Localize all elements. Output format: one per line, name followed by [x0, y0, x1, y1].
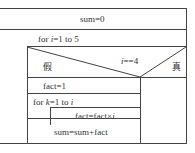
fact-init-statement: fact=1	[43, 81, 66, 91]
inner-loop-divider	[50, 107, 140, 108]
decision-condition: i==4	[121, 56, 138, 66]
inner-loop-left-border	[50, 107, 51, 125]
inner-loop-end-divider	[27, 118, 140, 119]
branch-divider	[140, 77, 141, 144]
inner-loop-body: fact=fact×i	[75, 111, 115, 121]
decision-true-label: 真	[172, 62, 181, 72]
decision-bottom-divider	[27, 77, 187, 78]
fact-init-divider	[27, 93, 140, 94]
decision-false-label: 假	[43, 62, 52, 72]
inner-loop-header: for k=1 to i	[33, 97, 73, 107]
sum-accumulate-statement: sum=sum+fact	[54, 127, 108, 137]
